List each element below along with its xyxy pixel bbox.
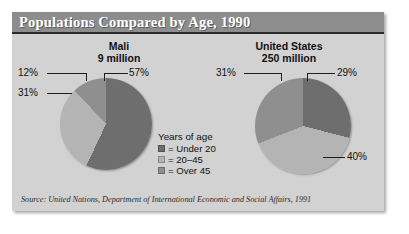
legend-swatch-20-45 bbox=[158, 156, 165, 163]
mali-pie-chart bbox=[60, 78, 152, 170]
legend-title: Years of age bbox=[158, 131, 216, 142]
source-note: Source: United Nations, Department of In… bbox=[21, 195, 311, 204]
legend-label-20-45: = 20–45 bbox=[168, 154, 203, 165]
mali-leader-under-20-tick bbox=[104, 73, 105, 81]
mali-leader-over-45-tick bbox=[86, 73, 87, 81]
figure-body: Mali 9 million 12% 31% 57% United States… bbox=[12, 36, 384, 211]
us-leader-under-20-tick bbox=[307, 73, 308, 81]
us-leader-under-20 bbox=[307, 73, 335, 74]
us-label-over-45: 31% bbox=[216, 67, 236, 78]
mali-title: Mali bbox=[64, 41, 174, 53]
legend-item-20-45: = 20–45 bbox=[158, 154, 216, 165]
united-states-pie-chart bbox=[255, 78, 351, 174]
title-band: Populations Compared by Age, 1990 bbox=[12, 12, 384, 34]
mali-heading: Mali 9 million bbox=[64, 41, 174, 64]
mali-label-20-45: 31% bbox=[18, 87, 38, 98]
us-label-under-20: 29% bbox=[337, 67, 357, 78]
mali-label-under-20: 57% bbox=[129, 67, 149, 78]
mali-leader-over-45 bbox=[47, 73, 87, 74]
united-states-title: United States bbox=[224, 41, 354, 53]
mali-subtitle: 9 million bbox=[64, 53, 174, 65]
united-states-heading: United States 250 million bbox=[224, 41, 354, 64]
us-label-20-45: 40% bbox=[347, 151, 367, 162]
mali-leader-under-20 bbox=[104, 73, 128, 74]
united-states-subtitle: 250 million bbox=[224, 53, 354, 65]
legend-label-over-45: = Over 45 bbox=[168, 165, 210, 176]
mali-leader-20-45 bbox=[47, 93, 72, 94]
legend-item-under-20: = Under 20 bbox=[158, 143, 216, 154]
legend-item-over-45: = Over 45 bbox=[158, 165, 216, 176]
us-leader-over-45 bbox=[244, 73, 282, 74]
legend: Years of age = Under 20 = 20–45 = Over 4… bbox=[158, 131, 216, 176]
us-leader-over-45-tick bbox=[281, 73, 282, 81]
legend-swatch-over-45 bbox=[158, 167, 165, 174]
page-title: Populations Compared by Age, 1990 bbox=[19, 14, 251, 31]
legend-label-under-20: = Under 20 bbox=[168, 143, 216, 154]
figure-panel: Populations Compared by Age, 1990 Mali 9… bbox=[12, 12, 384, 211]
us-leader-20-45 bbox=[323, 157, 345, 158]
mali-label-over-45: 12% bbox=[18, 67, 38, 78]
legend-swatch-under-20 bbox=[158, 145, 165, 152]
